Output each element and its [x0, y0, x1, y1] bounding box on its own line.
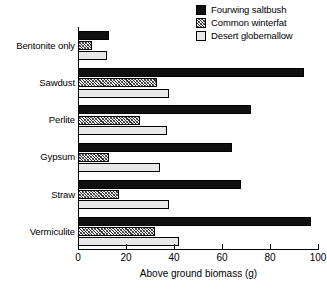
x-tick-mark: [318, 244, 319, 250]
y-axis-label: Straw: [1, 190, 75, 200]
bar: [78, 41, 92, 50]
bar: [78, 31, 109, 40]
x-tick-label: 20: [120, 252, 131, 264]
y-axis-label: Bentonite only: [1, 41, 75, 51]
bar: [78, 105, 251, 114]
x-tick-mark: [78, 244, 79, 250]
bar: [78, 180, 241, 189]
bar-chart: Fourwing saltbushCommon winterfatDesert …: [0, 0, 327, 291]
bar-group: [78, 217, 318, 246]
x-tick-label: 0: [75, 252, 81, 264]
x-tick-label: 100: [310, 252, 327, 264]
legend-swatch-icon: [196, 5, 206, 15]
x-tick-label: 40: [168, 252, 179, 264]
bar: [78, 163, 160, 172]
bar: [78, 217, 311, 226]
bar: [78, 51, 107, 60]
y-axis-label: Perlite: [1, 115, 75, 125]
bar-group: [78, 31, 318, 60]
bar-group: [78, 180, 318, 209]
y-axis-category-labels: Bentonite onlySawdustPerliteGypsumStrawV…: [0, 27, 75, 249]
x-tick-mark: [174, 244, 175, 250]
bar: [78, 200, 169, 209]
bar: [78, 89, 169, 98]
y-axis-label: Gypsum: [1, 152, 75, 162]
bar: [78, 78, 157, 87]
legend-item: Fourwing saltbush: [196, 4, 327, 16]
x-axis-tick-labels: 020406080100: [78, 252, 319, 266]
bar: [78, 227, 155, 236]
y-axis-label: Vermiculite: [1, 227, 75, 237]
plot-area: [78, 27, 318, 249]
bar: [78, 116, 140, 125]
bar: [78, 153, 109, 162]
x-tick-mark: [126, 244, 127, 250]
bar-group: [78, 143, 318, 172]
bar-group: [78, 68, 318, 97]
x-tick-label: 60: [216, 252, 227, 264]
x-axis-title: Above ground biomass (g): [78, 268, 319, 280]
x-tick-label: 80: [264, 252, 275, 264]
x-tick-mark: [222, 244, 223, 250]
x-axis-ticks: [78, 243, 319, 250]
bar-group: [78, 105, 318, 134]
bar: [78, 126, 167, 135]
bar: [78, 190, 119, 199]
legend-label: Fourwing saltbush: [211, 5, 286, 15]
bar: [78, 143, 232, 152]
x-tick-mark: [270, 244, 271, 250]
y-axis-label: Sawdust: [1, 78, 75, 88]
bar: [78, 68, 304, 77]
